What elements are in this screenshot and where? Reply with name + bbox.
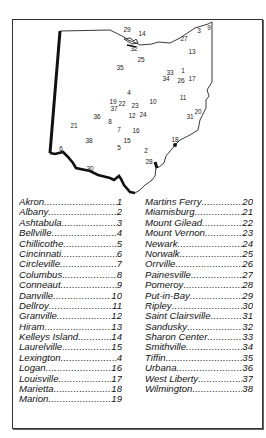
leader-dots <box>205 228 242 238</box>
legend-row: Columbus8 <box>19 270 122 280</box>
legend-row: Newark24 <box>145 239 253 249</box>
leader-dots <box>62 342 111 352</box>
town-name: Cincinnati <box>19 249 61 259</box>
town-number: 20 <box>242 197 253 207</box>
map-marker-label: 4 <box>127 89 131 96</box>
town-number: 38 <box>242 384 253 394</box>
legend-row: Louisville17 <box>19 374 122 384</box>
map-marker-label: 15 <box>123 137 131 144</box>
leader-dots <box>211 311 243 321</box>
town-name: Louisville <box>19 374 58 384</box>
town-name: Put-in-Bay <box>145 291 190 301</box>
leader-dots <box>52 228 117 238</box>
town-number: 13 <box>111 322 122 332</box>
town-number: 16 <box>111 363 122 373</box>
legend-row: Smithville34 <box>145 342 253 352</box>
town-name: Pomeroy <box>145 280 183 290</box>
legend-row: Mount Vernon23 <box>145 228 253 238</box>
town-name: Urbana <box>145 363 176 373</box>
town-number: 18 <box>111 384 122 394</box>
legend-row: Orrville26 <box>145 259 253 269</box>
town-number: 26 <box>242 259 253 269</box>
map-marker-label: 12 <box>128 112 136 119</box>
leader-dots <box>57 311 111 321</box>
map-marker-label: 18 <box>171 136 179 143</box>
town-name: Sharon Center <box>145 332 207 342</box>
leader-dots <box>58 374 111 384</box>
town-number: 36 <box>242 363 253 373</box>
map-marker-label: 38 <box>85 137 93 144</box>
legend-row: West Liberty37 <box>145 374 253 384</box>
town-number: 31 <box>242 311 253 321</box>
town-number: 27 <box>242 270 253 280</box>
town-number: 6 <box>117 249 122 259</box>
legend-row: Pomeroy28 <box>145 280 253 290</box>
legend-row: Urbana36 <box>145 363 253 373</box>
legend-row: Logan16 <box>19 363 122 373</box>
town-name: Painesville <box>145 270 191 280</box>
legend-row: Circleville7 <box>19 259 122 269</box>
map-marker-label: 31 <box>186 113 194 120</box>
legend-left-column: Akron1Albany2Ashtabula3Bellville4Chillic… <box>19 197 122 405</box>
town-number: 15 <box>111 342 122 352</box>
town-name: Marietta <box>19 384 54 394</box>
legend-row: Hiram13 <box>19 322 122 332</box>
map-marker-label: 17 <box>188 75 196 82</box>
leader-dots <box>183 280 242 290</box>
town-number: 28 <box>242 280 253 290</box>
town-name: Kelleys Island <box>19 332 78 342</box>
town-name: Akron <box>19 197 44 207</box>
town-number: 17 <box>111 374 122 384</box>
town-number: 2 <box>117 207 122 217</box>
map-marker-label: 21 <box>70 122 78 129</box>
town-number: 9 <box>117 280 122 290</box>
map-marker-label: 25 <box>137 56 145 63</box>
legend-row: Akron1 <box>19 197 122 207</box>
legend-row: Marion19 <box>19 394 122 404</box>
town-number: 23 <box>242 228 253 238</box>
town-name: Sandusky <box>145 322 187 332</box>
leader-dots <box>191 270 242 280</box>
town-name: Mount Gilead <box>145 218 202 228</box>
town-number: 35 <box>242 353 253 363</box>
town-number: 11 <box>112 301 122 311</box>
town-number: 29 <box>242 291 253 301</box>
ohio-map: 2914392732132535331342617410111922233712… <box>0 0 266 200</box>
town-number: 1 <box>117 197 122 207</box>
leader-dots <box>207 332 242 342</box>
map-marker-label: 23 <box>131 102 139 109</box>
town-number: 8 <box>117 270 122 280</box>
legend-row: Conneaut9 <box>19 280 122 290</box>
town-name: Martins Ferry <box>145 197 202 207</box>
town-number: 21 <box>242 207 253 217</box>
town-name: Norwalk <box>145 249 180 259</box>
town-name: Bellville <box>19 228 52 238</box>
town-name: Wilmington <box>145 384 192 394</box>
leader-dots <box>48 394 111 404</box>
leader-dots <box>48 207 116 217</box>
river-segment-pomeroy <box>155 162 157 168</box>
map-marker-label: 11 <box>180 94 187 101</box>
map-marker-label: 9 <box>207 24 211 31</box>
legend-row: Ashtabula3 <box>19 218 122 228</box>
leader-dots <box>44 197 117 207</box>
legend-row: Marietta18 <box>19 384 122 394</box>
town-number: 3 <box>117 218 122 228</box>
map-marker-label: 22 <box>118 100 126 107</box>
western-border <box>50 31 60 153</box>
map-marker-label: 34 <box>162 75 170 82</box>
legend-right-column: Martins Ferry20Miamisburg21Mount Gilead2… <box>145 197 253 394</box>
town-name: Hiram <box>19 322 45 332</box>
town-number: 34 <box>242 342 253 352</box>
leader-dots <box>190 291 243 301</box>
leader-dots <box>46 363 112 373</box>
legend-row: Mount Gilead22 <box>145 218 253 228</box>
legend-row: Sandusky32 <box>145 322 253 332</box>
leader-dots <box>60 259 117 269</box>
map-marker-label: 27 <box>180 35 188 42</box>
map-marker-label: 14 <box>138 30 146 37</box>
town-number: 14 <box>111 332 122 342</box>
leader-dots <box>45 322 112 332</box>
town-name: Conneaut <box>19 280 61 290</box>
town-name: Mount Vernon <box>145 228 205 238</box>
